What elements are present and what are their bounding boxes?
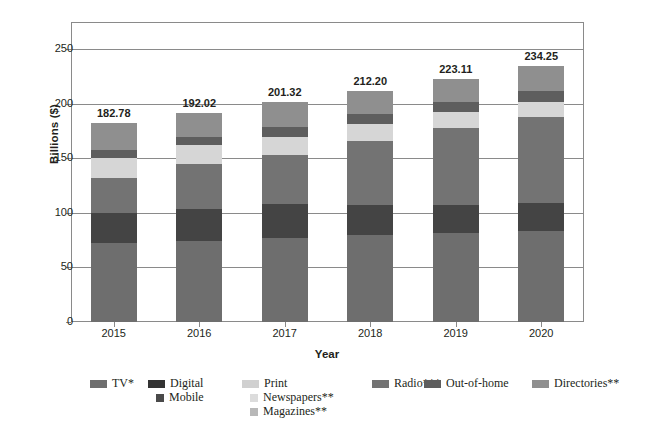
bar-total-label: 223.11 (411, 63, 501, 75)
bar-segment[interactable] (176, 164, 222, 208)
legend-item[interactable]: Newspapers** (250, 390, 334, 405)
bar-segment[interactable] (176, 209, 222, 241)
bar-column[interactable] (262, 0, 308, 322)
bar-segment[interactable] (347, 205, 393, 235)
bar-total-label: 234.25 (496, 50, 586, 62)
bar-segment[interactable] (433, 79, 479, 102)
bar-segment[interactable] (433, 128, 479, 204)
legend-item[interactable]: Print (242, 376, 287, 391)
bar-column[interactable] (91, 0, 137, 322)
bar-segment[interactable] (347, 91, 393, 115)
legend-label: TV* (112, 376, 134, 391)
bar-segment[interactable] (91, 243, 137, 322)
bar-segment[interactable] (176, 113, 222, 137)
bar-segment[interactable] (518, 66, 564, 90)
legend-swatch-icon (156, 394, 164, 402)
legend-item[interactable]: Digital (148, 376, 203, 391)
bar-segment[interactable] (262, 127, 308, 136)
bar-segment[interactable] (518, 102, 564, 118)
bar-segment[interactable] (176, 241, 222, 322)
bar-segment[interactable] (433, 233, 479, 322)
bar-column[interactable] (518, 0, 564, 322)
bar-total-label: 192.02 (154, 97, 244, 109)
bar-segment[interactable] (262, 102, 308, 127)
bar-segment[interactable] (433, 102, 479, 112)
bar-segment[interactable] (91, 123, 137, 150)
bar-segment[interactable] (518, 91, 564, 102)
bar-segment[interactable] (347, 124, 393, 141)
legend-label: Newspapers** (263, 390, 334, 405)
legend-swatch-icon (424, 380, 441, 388)
bars-layer: 182.78192.02201.32212.20223.11234.25 (0, 0, 654, 430)
legend-swatch-icon (250, 394, 258, 402)
x-tick-label: 2018 (325, 327, 415, 339)
bar-column[interactable] (347, 0, 393, 322)
legend-item[interactable]: Magazines** (250, 404, 327, 419)
chart-legend: TV*DigitalMobilePrintNewspapers**Magazin… (0, 372, 654, 430)
bar-segment[interactable] (262, 238, 308, 322)
stacked-bar-chart: Billions ($) 050100150200250 182.78192.0… (0, 0, 654, 430)
x-tick-label: 2017 (240, 327, 330, 339)
legend-swatch-icon (532, 380, 549, 388)
bar-segment[interactable] (176, 137, 222, 146)
legend-swatch-icon (242, 380, 259, 388)
bar-segment[interactable] (262, 204, 308, 238)
bar-segment[interactable] (433, 205, 479, 233)
legend-label: Digital (170, 376, 203, 391)
bar-segment[interactable] (347, 235, 393, 322)
bar-segment[interactable] (518, 231, 564, 322)
x-tick-label: 2019 (411, 327, 501, 339)
bar-total-label: 182.78 (69, 107, 159, 119)
bar-column[interactable] (433, 0, 479, 322)
legend-swatch-icon (148, 380, 165, 388)
bar-segment[interactable] (347, 141, 393, 205)
bar-segment[interactable] (262, 155, 308, 205)
bar-segment[interactable] (91, 178, 137, 213)
bar-segment[interactable] (518, 117, 564, 203)
legend-label: Out-of-home (446, 376, 509, 391)
legend-swatch-icon (250, 408, 258, 416)
bar-total-label: 201.32 (240, 86, 330, 98)
bar-segment[interactable] (91, 158, 137, 178)
bar-segment[interactable] (91, 150, 137, 158)
legend-item[interactable]: Mobile (156, 390, 204, 405)
legend-swatch-icon (372, 380, 389, 388)
x-tick-label: 2016 (154, 327, 244, 339)
bar-total-label: 212.20 (325, 75, 415, 87)
bar-segment[interactable] (433, 112, 479, 128)
x-axis-title: Year (0, 348, 654, 360)
legend-swatch-icon (90, 380, 107, 388)
x-tick-label: 2020 (496, 327, 586, 339)
legend-label: Directories** (554, 376, 619, 391)
x-tick-label: 2015 (69, 327, 159, 339)
legend-item[interactable]: Directories** (532, 376, 619, 391)
legend-label: Magazines** (263, 404, 327, 419)
bar-segment[interactable] (176, 145, 222, 164)
legend-item[interactable]: Out-of-home (424, 376, 509, 391)
bar-column[interactable] (176, 0, 222, 322)
legend-label: Mobile (169, 390, 204, 405)
bar-segment[interactable] (91, 213, 137, 244)
legend-item[interactable]: TV* (90, 376, 134, 391)
bar-segment[interactable] (347, 114, 393, 124)
legend-label: Print (264, 376, 287, 391)
bar-segment[interactable] (262, 137, 308, 155)
bar-segment[interactable] (518, 203, 564, 231)
